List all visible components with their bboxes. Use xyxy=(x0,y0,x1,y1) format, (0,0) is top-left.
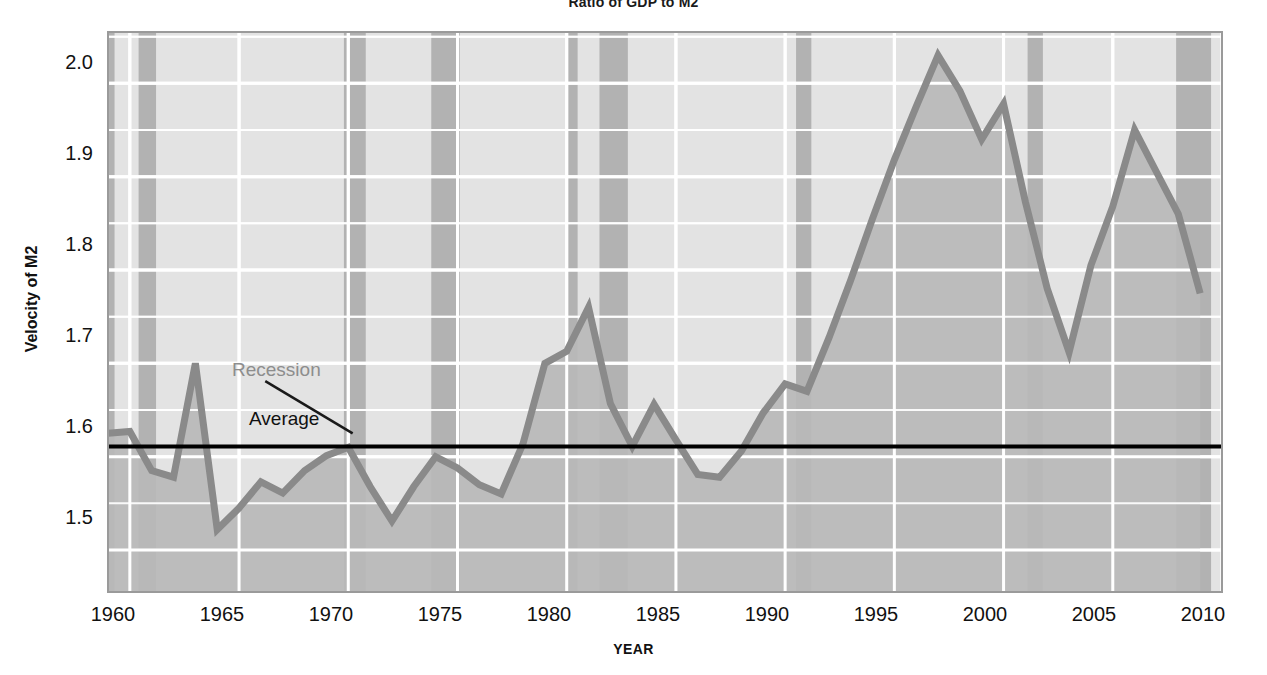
chart-figure: Ratio of GDP to M2 Velocity of M2 YEAR 2… xyxy=(0,0,1267,675)
plot-area xyxy=(0,0,1267,675)
annotation-recession-label: Recession xyxy=(232,360,321,379)
annotation-average-label: Average xyxy=(249,409,319,428)
